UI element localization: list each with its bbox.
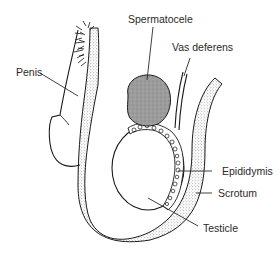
epididymis-label: Epididymis bbox=[222, 165, 273, 177]
vas-deferens bbox=[175, 72, 187, 130]
spermatocele-label: Spermatocele bbox=[128, 13, 193, 25]
penis-glans-line bbox=[60, 115, 69, 125]
vas-deferens-leader bbox=[184, 58, 190, 76]
spermatocele-cyst bbox=[128, 75, 171, 126]
penis-label: Penis bbox=[16, 66, 42, 78]
spermatocele-leader bbox=[147, 27, 153, 80]
scrotum-label: Scrotum bbox=[218, 187, 257, 199]
penis-leader bbox=[40, 73, 78, 96]
anatomy-diagram: Penis Spermatocele Vas deferens Epididym… bbox=[0, 0, 279, 255]
vas-deferens-label: Vas deferens bbox=[172, 41, 233, 53]
testicle-label: Testicle bbox=[203, 222, 238, 234]
penis-shape bbox=[49, 30, 80, 166]
